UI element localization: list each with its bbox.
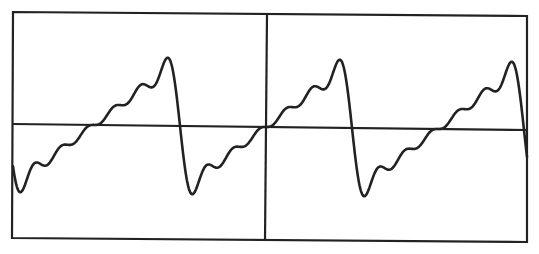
- sawtooth-fourier-figure: [0, 0, 539, 254]
- sawtooth-waveform: [13, 58, 527, 197]
- waveform-plot: [0, 0, 539, 254]
